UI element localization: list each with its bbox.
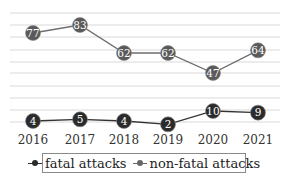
- legend-marker-icon: [133, 159, 147, 167]
- data-point: 83: [73, 18, 88, 33]
- x-tick-label: 2017: [65, 133, 96, 147]
- legend-item-fatal-attacks: fatal attacks: [28, 156, 127, 171]
- svg-text:47: 47: [206, 67, 219, 79]
- svg-text:4: 4: [30, 115, 37, 127]
- legend-marker-icon: [28, 159, 42, 167]
- svg-text:64: 64: [251, 44, 265, 56]
- data-point: 77: [26, 26, 41, 41]
- svg-text:77: 77: [26, 27, 39, 39]
- svg-text:62: 62: [161, 47, 174, 59]
- svg-text:2: 2: [165, 118, 172, 130]
- svg-text:62: 62: [117, 47, 130, 59]
- svg-text:9: 9: [255, 106, 262, 118]
- data-point: 2: [161, 117, 176, 132]
- data-point: 10: [206, 104, 221, 119]
- legend-label: non-fatal attacks: [150, 156, 261, 171]
- data-point: 4: [26, 114, 41, 129]
- data-point: 47: [206, 66, 221, 81]
- x-axis-labels: 201620172018201920202021: [18, 133, 274, 147]
- x-tick-label: 2018: [109, 133, 140, 147]
- data-point: 64: [251, 43, 266, 58]
- series-lines: [33, 25, 258, 124]
- svg-text:10: 10: [206, 105, 219, 117]
- data-point: 5: [73, 112, 88, 127]
- data-point: 62: [117, 46, 132, 61]
- data-points: 4542109778362624764: [26, 18, 266, 132]
- svg-text:4: 4: [121, 115, 128, 127]
- data-point: 4: [117, 114, 132, 129]
- svg-text:83: 83: [73, 19, 86, 31]
- gridlines: [10, 13, 280, 122]
- x-tick-label: 2021: [243, 133, 274, 147]
- data-point: 9: [251, 105, 266, 120]
- svg-text:5: 5: [77, 113, 84, 125]
- x-tick-label: 2019: [153, 133, 184, 147]
- legend-label: fatal attacks: [45, 156, 127, 171]
- legend-item-non-fatal-attacks: non-fatal attacks: [133, 156, 261, 171]
- data-point: 62: [161, 46, 176, 61]
- legend: fatal attacks non-fatal attacks: [42, 153, 246, 173]
- x-tick-label: 2020: [198, 133, 229, 147]
- line-chart: 4542109778362624764 20162017201820192020…: [0, 0, 289, 150]
- x-tick-label: 2016: [18, 133, 49, 147]
